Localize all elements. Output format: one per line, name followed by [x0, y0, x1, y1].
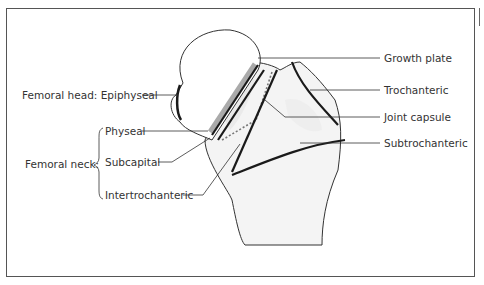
label-subtrochanteric: Subtrochanteric	[384, 137, 468, 149]
label-growth-plate: Growth plate	[384, 52, 452, 64]
label-femoral-neck: Femoral neck:	[25, 158, 99, 170]
femur-diagram: Femoral head: Epiphyseal Femoral neck: P…	[0, 0, 484, 285]
leader-subcapital	[158, 138, 210, 162]
label-intertrochanteric: Intertrochanteric	[105, 189, 194, 201]
label-trochanteric: Trochanteric	[383, 84, 449, 96]
label-physeal: Physeal	[105, 125, 145, 137]
label-subcapital: Subcapital	[105, 156, 160, 168]
label-joint-capsule: Joint capsule	[383, 111, 451, 123]
label-femoral-head: Femoral head: Epiphyseal	[22, 89, 158, 101]
